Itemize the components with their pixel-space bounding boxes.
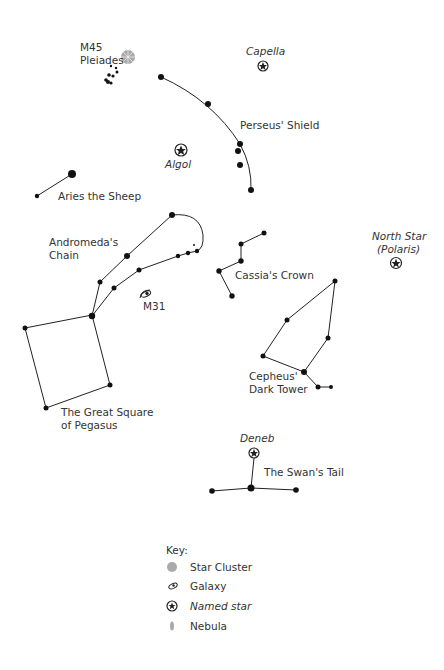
label-deneb: Deneb (240, 431, 274, 445)
label-andromeda-line1: Andromeda's (49, 235, 118, 249)
key-item-galaxy: Galaxy (166, 577, 226, 595)
label-north-star-line1: North Star (372, 229, 426, 243)
label-square-line2: of Pegasus (61, 418, 118, 432)
key-title: Key: (166, 544, 188, 556)
label-m45: M45 (80, 40, 102, 54)
label-m31: M31 (143, 299, 165, 313)
galaxy-icon (140, 290, 152, 299)
named-star-icon (166, 600, 178, 612)
key-item-nebula: Nebula (166, 617, 227, 635)
label-cepheus-line2: Dark Tower (249, 382, 308, 396)
label-andromeda-line2: Chain (49, 248, 79, 262)
label-square-line1: The Great Square (61, 405, 153, 419)
label-north-star-line2: (Polaris) (377, 242, 420, 256)
label-perseus: Perseus' Shield (240, 118, 319, 132)
label-capella: Capella (246, 44, 285, 58)
label-swan: The Swan's Tail (264, 465, 344, 479)
galaxy-icon (166, 580, 178, 592)
label-pleiades: Pleiades (80, 53, 124, 67)
star-cluster-icon (166, 561, 178, 573)
key-item-named-star: Named star (166, 597, 251, 615)
key-item-star-cluster: Star Cluster (166, 558, 252, 576)
label-algol: Algol (165, 157, 191, 171)
perseus-line (161, 77, 251, 190)
label-cassia: Cassia's Crown (235, 268, 314, 282)
nebula-icon (166, 620, 178, 632)
label-cepheus-line1: Cepheus' (249, 369, 298, 383)
label-aries: Aries the Sheep (58, 189, 141, 203)
